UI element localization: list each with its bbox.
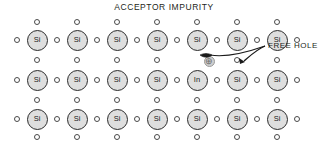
- annotation-arrows: [0, 0, 328, 143]
- figure-canvas: ACCEPTOR IMPURITY SiSiSiSiSiSiSiSiSiSiSi…: [0, 0, 328, 143]
- free-hole-label: FREE HOLE: [268, 41, 318, 50]
- leader-line-branch: [244, 46, 265, 61]
- arrowhead-icon: [200, 54, 212, 58]
